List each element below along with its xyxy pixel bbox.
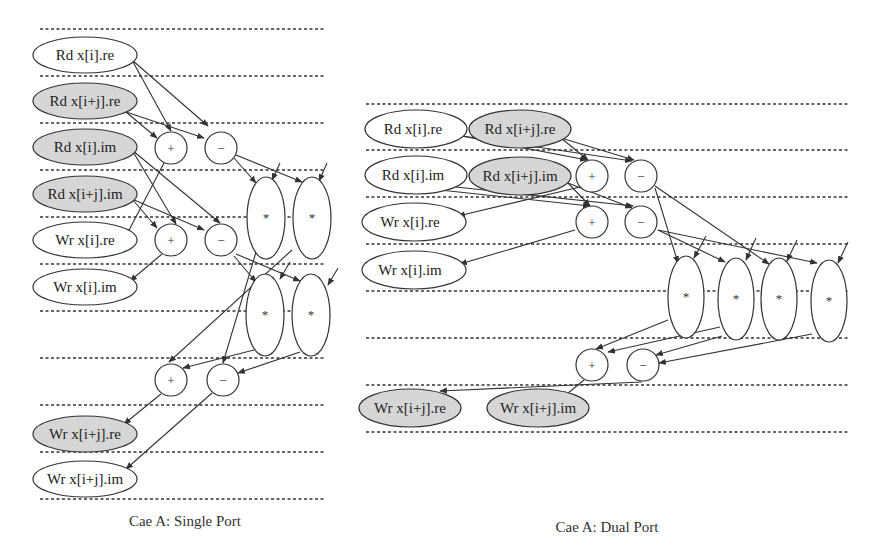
op-sub-3: − (627, 349, 659, 381)
mem-node-rd-xij-im: Rd x[i+j].im (33, 176, 137, 212)
mem-node-rd-xij-re: Rd x[i+j].re (33, 83, 137, 119)
memory-nodes: Rd x[i].re Rd x[i+j].re Rd x[i].im Rd x[… (359, 110, 589, 427)
mem-node-rd-xi-im: Rd x[i].im (33, 129, 137, 165)
svg-text:Rd x[i].re: Rd x[i].re (384, 121, 443, 137)
op-nodes: + − + − * * * (576, 160, 847, 381)
op-sub-2: − (625, 206, 657, 238)
mem-node-wr-xi-im: Wr x[i].im (33, 269, 137, 305)
svg-text:Wr x[i].re: Wr x[i].re (380, 214, 440, 230)
single-port-caption: Cae A: Single Port (129, 513, 242, 529)
dual-port-diagram: Rd x[i].re Rd x[i+j].re Rd x[i].im Rd x[… (359, 104, 848, 535)
op-sub-1: − (625, 160, 657, 192)
mem-node-wr-xij-re: Wr x[i+j].re (359, 389, 461, 427)
svg-text:Wr x[i+j].re: Wr x[i+j].re (49, 426, 121, 442)
mem-node-rd-xij-re: Rd x[i+j].re (469, 110, 571, 148)
svg-text:+: + (588, 358, 595, 373)
mem-node-wr-xij-re: Wr x[i+j].re (33, 416, 137, 452)
op-add-2: + (576, 206, 608, 238)
svg-text:*: * (733, 291, 740, 306)
svg-text:+: + (167, 141, 174, 156)
svg-text:Wr x[i].im: Wr x[i].im (53, 279, 117, 295)
op-mul-3: * (761, 258, 797, 340)
svg-text:*: * (826, 293, 833, 308)
svg-text:−: − (217, 141, 224, 156)
op-mul-2: * (293, 177, 331, 259)
op-add-3: + (576, 349, 608, 381)
mem-node-rd-xi-im: Rd x[i].im (365, 156, 467, 194)
svg-text:Rd x[i+j].im: Rd x[i+j].im (482, 168, 557, 184)
svg-text:+: + (167, 233, 174, 248)
svg-text:Wr x[i].re: Wr x[i].re (55, 232, 115, 248)
svg-text:Rd x[i].re: Rd x[i].re (56, 47, 115, 63)
svg-text:Rd x[i+j].re: Rd x[i+j].re (50, 93, 121, 109)
mem-node-wr-xi-re: Wr x[i].re (33, 222, 137, 258)
memory-nodes: Rd x[i].re Rd x[i+j].re Rd x[i].im Rd x[… (33, 37, 137, 497)
svg-text:*: * (262, 307, 269, 322)
op-sub-3: − (207, 364, 239, 396)
mem-node-wr-xij-im: Wr x[i+j].im (487, 389, 589, 427)
svg-text:−: − (639, 358, 646, 373)
svg-text:Rd x[i+j].im: Rd x[i+j].im (47, 186, 122, 202)
mem-node-wr-xi-re: Wr x[i].re (362, 203, 466, 241)
svg-text:−: − (219, 373, 226, 388)
op-mul-2: * (718, 258, 754, 340)
op-mul-1: * (668, 256, 704, 338)
mem-node-rd-xi-re: Rd x[i].re (365, 110, 467, 148)
op-sub-1: − (205, 132, 237, 164)
svg-text:+: + (588, 169, 595, 184)
op-add-1: + (155, 132, 187, 164)
dual-port-caption: Cae A: Dual Port (556, 519, 660, 535)
mem-node-wr-xij-im: Wr x[i+j].im (33, 461, 137, 497)
svg-text:Rd x[i+j].re: Rd x[i+j].re (485, 121, 556, 137)
op-add-3: + (155, 364, 187, 396)
op-mul-3: * (246, 274, 284, 356)
op-sub-2: − (205, 224, 237, 256)
svg-text:Wr x[i].im: Wr x[i].im (378, 262, 442, 278)
svg-text:Wr x[i+j].re: Wr x[i+j].re (374, 400, 446, 416)
svg-text:Rd x[i].im: Rd x[i].im (382, 167, 445, 183)
svg-text:−: − (637, 215, 644, 230)
op-add-2: + (155, 224, 187, 256)
svg-text:−: − (217, 233, 224, 248)
svg-text:+: + (167, 373, 174, 388)
op-mul-4: * (811, 260, 847, 342)
svg-text:*: * (263, 210, 270, 225)
svg-text:Wr x[i+j].im: Wr x[i+j].im (47, 471, 124, 487)
op-mul-1: * (247, 177, 285, 259)
dataflow-diagrams: Rd x[i].re Rd x[i+j].re Rd x[i].im Rd x[… (0, 0, 888, 559)
mem-node-rd-xij-im: Rd x[i+j].im (469, 157, 571, 195)
svg-text:*: * (683, 289, 690, 304)
op-add-1: + (576, 160, 608, 192)
svg-text:+: + (588, 215, 595, 230)
op-mul-4: * (292, 274, 330, 356)
mem-node-rd-xi-re: Rd x[i].re (33, 37, 137, 73)
svg-text:*: * (309, 210, 316, 225)
single-port-diagram: Rd x[i].re Rd x[i+j].re Rd x[i].im Rd x[… (33, 29, 338, 529)
svg-text:*: * (308, 307, 315, 322)
mem-node-wr-xi-im: Wr x[i].im (362, 251, 466, 289)
svg-text:*: * (776, 291, 783, 306)
svg-text:Rd x[i].im: Rd x[i].im (54, 139, 117, 155)
svg-text:Wr x[i+j].im: Wr x[i+j].im (500, 400, 577, 416)
svg-text:−: − (637, 169, 644, 184)
